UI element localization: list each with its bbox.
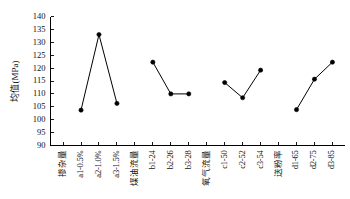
line-chart-svg: 1401351301251201151101051009590 掺杂量a1-0.… (0, 0, 350, 199)
data-point-marker (259, 68, 263, 72)
x-axis-tick-labels: 掺杂量a1-0.5%a2-1.0%a3-1.5%煤油流量b1-24b2-26b3… (57, 150, 336, 186)
x-axis-tick-marks (63, 142, 332, 146)
y-axis-tick-label: 115 (33, 75, 45, 85)
data-point-marker (312, 77, 316, 81)
x-axis-tick-label: 氧气流量 (201, 150, 211, 185)
data-point-marker (151, 60, 155, 64)
y-axis-tick-label: 130 (33, 37, 46, 47)
y-axis-tick-label: 100 (33, 114, 46, 124)
x-axis-tick-label: a3-1.5% (111, 150, 121, 177)
x-axis-tick-label: b3-28 (183, 151, 193, 170)
y-axis-tick-label: 125 (33, 50, 46, 60)
data-point-marker (79, 108, 83, 112)
x-axis-tick-label: 送粉率 (273, 150, 283, 177)
x-axis-tick-label: c2-52 (237, 151, 247, 169)
x-axis-tick-label: 掺杂量 (57, 150, 67, 177)
x-axis-tick-label: a2-1.0% (93, 150, 103, 177)
data-point-marker (294, 108, 298, 112)
y-axis-tick-marks (51, 17, 55, 146)
data-point-marker (241, 96, 245, 100)
data-point-marker (97, 32, 101, 36)
series-line (225, 70, 261, 98)
x-axis-tick-label: c3-54 (255, 150, 265, 169)
x-axis-tick-label: d1-65 (290, 151, 300, 170)
x-axis-tick-label: d2-75 (308, 151, 318, 170)
x-axis-tick-label: c1-50 (219, 151, 229, 169)
y-axis-tick-label: 120 (33, 63, 46, 73)
data-point-marker (330, 60, 334, 64)
y-axis-tick-label: 140 (33, 11, 46, 21)
x-axis-tick-label: b1-24 (147, 150, 157, 170)
data-point-marker (187, 92, 191, 96)
y-axis-tick-label: 135 (33, 24, 46, 34)
y-axis-title: 均值(MPa) (9, 61, 20, 102)
x-axis-tick-label: d3-85 (326, 151, 336, 170)
series-lines-group (81, 35, 332, 111)
y-axis-title-group: 均值(MPa) (9, 61, 20, 102)
x-axis-tick-label: 煤油流量 (129, 150, 139, 185)
chart-container: 1401351301251201151101051009590 掺杂量a1-0.… (0, 0, 350, 199)
y-axis-tick-labels: 1401351301251201151101051009590 (33, 11, 46, 150)
y-axis-tick-label: 105 (33, 101, 46, 111)
series-points-group (79, 32, 335, 112)
series-line (297, 62, 333, 109)
data-point-marker (223, 80, 227, 84)
data-point-marker (115, 101, 119, 105)
series-line (153, 62, 189, 94)
y-axis-tick-label: 95 (37, 127, 46, 137)
data-point-marker (169, 92, 173, 96)
x-axis-tick-label: b2-26 (165, 151, 175, 170)
x-axis-tick-label: a1-0.5% (75, 150, 85, 177)
y-axis-tick-label: 90 (37, 140, 46, 150)
series-line (81, 35, 117, 111)
y-axis-tick-label: 110 (33, 88, 45, 98)
